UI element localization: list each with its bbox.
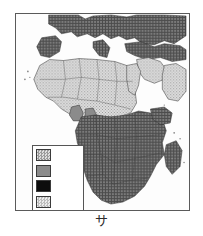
legend-swatch-3[interactable]: [36, 180, 51, 192]
map-legend[interactable]: [32, 145, 84, 211]
figure-caption: サ: [0, 213, 203, 229]
map-figure: サ: [0, 0, 203, 236]
legend-swatch-5[interactable]: [36, 210, 51, 211]
legend-swatch-4[interactable]: [36, 196, 51, 208]
legend-swatch-2[interactable]: [36, 165, 51, 177]
map-frame: [15, 13, 190, 211]
legend-swatch-1[interactable]: [36, 149, 51, 161]
